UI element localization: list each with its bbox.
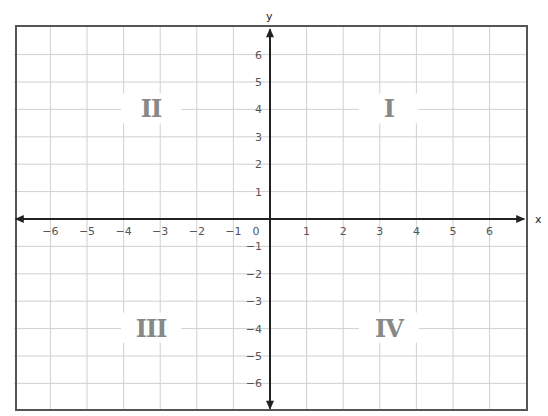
x-tick-label: 0	[253, 225, 260, 238]
y-tick-label: −3	[246, 295, 262, 308]
x-tick-label: 3	[376, 225, 383, 238]
quadrant-label-ii: II	[141, 94, 162, 123]
y-tick-label: 3	[255, 131, 262, 144]
x-tick-label: −6	[42, 225, 58, 238]
axes	[15, 28, 525, 410]
x-tick-label: −1	[225, 225, 241, 238]
y-tick-label: −1	[246, 240, 262, 253]
x-tick-label: 5	[450, 225, 457, 238]
y-tick-label: 2	[255, 158, 262, 171]
y-tick-label: 5	[255, 76, 262, 89]
x-tick-label: 6	[486, 225, 493, 238]
y-tick-label: −5	[246, 350, 262, 363]
y-axis-arrow-up-icon	[266, 28, 274, 37]
y-axis-label: y	[266, 10, 273, 23]
x-tick-label: −3	[152, 225, 168, 238]
quadrant-label-i: I	[384, 94, 395, 123]
x-tick-label: −5	[79, 225, 95, 238]
x-tick-label: 1	[303, 225, 310, 238]
x-tick-label: 4	[413, 225, 420, 238]
y-tick-label: 6	[255, 49, 262, 62]
x-axis-label: x	[535, 213, 542, 226]
quadrant-label-iv: IV	[375, 314, 404, 343]
y-axis-arrow-down-icon	[266, 401, 274, 410]
x-tick-label: −4	[115, 225, 131, 238]
x-tick-label: −2	[189, 225, 205, 238]
y-tick-label: 1	[255, 186, 262, 199]
y-tick-label: 4	[255, 103, 262, 116]
y-tick-label: −6	[246, 377, 262, 390]
x-tick-label: 2	[340, 225, 347, 238]
x-axis-arrow-right-icon	[516, 215, 525, 223]
quadrant-label-iii: III	[136, 314, 167, 343]
coordinate-plane: −6−5−4−3−2−10123456−6−5−4−3−2−1123456 II…	[0, 0, 548, 416]
y-tick-label: −4	[246, 323, 262, 336]
y-tick-label: −2	[246, 268, 262, 281]
